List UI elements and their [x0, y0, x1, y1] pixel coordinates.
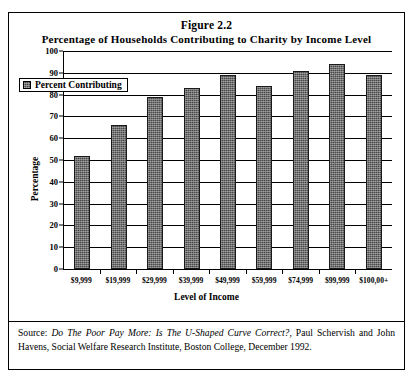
y-tick-label: 50 [50, 155, 59, 165]
x-tick-label: $39,999 [173, 276, 210, 285]
bar-59999[interactable] [256, 86, 272, 269]
x-tick-mark [282, 270, 283, 274]
bar-slot [137, 51, 173, 269]
x-tick-label: $99,999 [319, 276, 356, 285]
figure-number: Figure 2.2 [9, 18, 404, 32]
y-tick-label: 90 [50, 68, 59, 78]
bar-74999[interactable] [293, 71, 309, 269]
y-tick-label: 40 [50, 177, 59, 187]
x-axis-tick-labels: $9,999$19,999$29,999$39,999$49,999$59,99… [63, 276, 392, 285]
source-note: Source: Do The Poor Pay More: Is The U-S… [18, 326, 395, 353]
bar-99999[interactable] [329, 64, 345, 269]
bar-39999[interactable] [184, 88, 200, 269]
chart-legend: Percent Contributing [19, 78, 128, 92]
x-tick-label: $9,999 [63, 276, 100, 285]
y-tick-label: 60 [50, 133, 59, 143]
x-tick-mark [209, 270, 210, 274]
source-prefix: Source: [18, 327, 51, 338]
source-divider [9, 321, 404, 322]
bar-slot [173, 51, 209, 269]
x-axis-ticks [63, 270, 392, 275]
x-tick-label: $100,00+ [356, 276, 393, 285]
y-tick-label: 100 [45, 46, 58, 56]
x-tick-label: $74,999 [282, 276, 319, 285]
x-tick-mark [136, 270, 137, 274]
bar-9999[interactable] [74, 156, 90, 269]
y-tick-label: 0 [54, 264, 58, 274]
y-tick-label: 20 [50, 220, 59, 230]
chart-area: Percentage 0102030405060708090100 Percen… [9, 51, 404, 307]
x-tick-label: $59,999 [246, 276, 283, 285]
x-tick-label: $29,999 [136, 276, 173, 285]
x-tick-mark [319, 270, 320, 274]
bar-19999[interactable] [111, 125, 127, 269]
x-axis-label: Level of Income [9, 292, 404, 302]
bar-49999[interactable] [220, 75, 236, 269]
legend-label-percent-contributing: Percent Contributing [35, 80, 122, 90]
x-tick-mark [246, 270, 247, 274]
bar-slot [210, 51, 246, 269]
page-title: Percentage of Households Contributing to… [9, 32, 404, 46]
x-tick-label: $19,999 [100, 276, 137, 285]
y-tick-label: 70 [50, 111, 59, 121]
y-tick-label: 30 [50, 199, 59, 209]
bar-slot [283, 51, 319, 269]
x-tick-mark [173, 270, 174, 274]
figure-title-block: Figure 2.2 Percentage of Households Cont… [9, 13, 404, 46]
bar-29999[interactable] [147, 97, 163, 269]
figure-frame: Figure 2.2 Percentage of Households Cont… [8, 12, 405, 370]
x-tick-mark [100, 270, 101, 274]
bar-10000[interactable] [366, 75, 382, 269]
source-italic-title: Do The Poor Pay More: Is The U-Shaped Cu… [51, 327, 289, 338]
x-tick-label: $49,999 [209, 276, 246, 285]
bar-slot [356, 51, 392, 269]
bar-slot [246, 51, 282, 269]
x-tick-mark [355, 270, 356, 274]
y-tick-label: 10 [50, 242, 59, 252]
bar-slot [319, 51, 355, 269]
legend-swatch-percent-contributing [23, 81, 31, 89]
